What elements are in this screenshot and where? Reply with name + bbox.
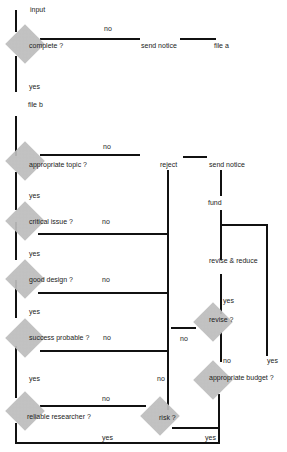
connector — [15, 10, 17, 32]
edge-researcher-no: no — [102, 395, 110, 402]
connector — [15, 423, 17, 443]
node-revise-reduce: revise & reduce — [209, 257, 258, 264]
connector — [220, 332, 222, 362]
edge-revise-yes: yes — [223, 297, 234, 304]
connector — [40, 154, 140, 156]
connector — [15, 56, 17, 92]
node-good-design: good design ? — [29, 276, 73, 283]
connector — [15, 172, 17, 210]
node-risk: risk ? — [159, 414, 176, 421]
node-critical-issue: critical issue ? — [29, 218, 73, 225]
edge-budget-no: no — [223, 357, 231, 364]
edge-revise-no-left: no — [180, 335, 188, 342]
node-send-notice-2: send notice — [209, 161, 245, 168]
edge-design-no: no — [102, 276, 110, 283]
edge-success-yes: yes — [29, 375, 40, 382]
node-file-b: file b — [28, 101, 43, 108]
connector — [183, 156, 207, 158]
connector — [171, 327, 196, 329]
connector — [180, 38, 216, 40]
edge-critical-no: no — [102, 218, 110, 225]
node-file-a: file a — [214, 42, 229, 49]
connector — [15, 442, 220, 444]
connector — [40, 38, 140, 40]
node-send-notice-1: send notice — [141, 42, 177, 49]
connector — [222, 224, 267, 226]
node-input: input — [30, 6, 45, 13]
edge-topic-yes: yes — [29, 192, 40, 199]
edge-researcher-yes: yes — [102, 434, 113, 441]
edge-budget-yes: yes — [267, 357, 278, 364]
connector — [167, 170, 169, 410]
connector — [266, 224, 268, 356]
connector — [38, 292, 167, 294]
edge-success-no: no — [103, 334, 111, 341]
connector — [218, 394, 220, 442]
edge-risk-yes: yes — [205, 434, 216, 441]
node-appropriate-budget: appropriate budget ? — [209, 374, 274, 381]
decision-researcher-shape — [5, 391, 45, 431]
edge-design-yes: yes — [29, 308, 40, 315]
edge-critical-yes: yes — [29, 250, 40, 257]
connector — [40, 405, 146, 407]
node-success-probable: success probable ? — [29, 334, 89, 341]
node-revise: revise ? — [209, 316, 234, 323]
connector — [220, 274, 222, 314]
connector — [172, 427, 218, 429]
edge-complete-yes: yes — [29, 83, 40, 90]
connector — [40, 350, 167, 352]
edge-risk-no: no — [157, 375, 165, 382]
node-reliable-researcher: reliable researcher ? — [27, 413, 91, 420]
node-reject: reject — [160, 161, 177, 168]
node-appropriate-topic: appropriate topic ? — [29, 161, 87, 168]
connector — [38, 233, 167, 235]
process-fund-shape — [200, 191, 245, 213]
node-fund: fund — [208, 199, 222, 206]
edge-topic-no: no — [103, 143, 111, 150]
node-complete: complete ? — [29, 42, 63, 49]
connector — [15, 346, 17, 398]
edge-complete-no: no — [104, 25, 112, 32]
